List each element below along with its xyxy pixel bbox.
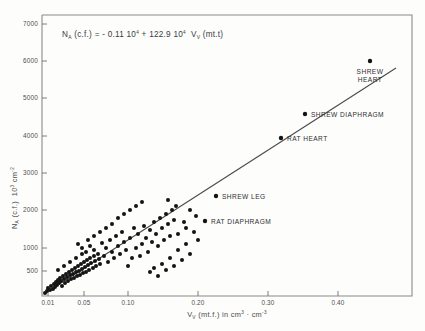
y-tick-label: 3000 bbox=[23, 169, 38, 176]
data-point bbox=[92, 248, 96, 252]
x-tick-label: 0.40 bbox=[331, 299, 344, 306]
data-point bbox=[93, 259, 97, 263]
data-point bbox=[188, 208, 192, 212]
data-point bbox=[118, 252, 122, 256]
data-point bbox=[102, 254, 106, 258]
data-point bbox=[184, 226, 188, 230]
data-point bbox=[166, 198, 170, 202]
data-point bbox=[188, 252, 192, 256]
data-point bbox=[56, 268, 60, 272]
y-tick-label: 7000 bbox=[23, 20, 38, 27]
data-point bbox=[128, 236, 132, 240]
x-axis-ticks: 0.010.050.100.200.300.40 bbox=[41, 291, 344, 306]
data-point-label: RAT HEART bbox=[287, 135, 328, 142]
y-tick-label: 500 bbox=[27, 267, 39, 274]
data-point bbox=[116, 244, 120, 248]
data-point bbox=[170, 208, 174, 212]
data-point bbox=[124, 248, 128, 252]
regression-line-path bbox=[50, 68, 396, 290]
data-point bbox=[152, 220, 156, 224]
labeled-data-points: SHREWHEARTSHREW DIAPHRAGMRAT HEARTSHREW … bbox=[203, 59, 384, 225]
labeled-data-point bbox=[279, 136, 283, 140]
labeled-data-point bbox=[203, 219, 207, 223]
data-point bbox=[112, 256, 116, 260]
data-point bbox=[160, 226, 164, 230]
data-point-label: SHREW DIAPHRAGM bbox=[311, 111, 384, 118]
data-point bbox=[122, 240, 126, 244]
data-point bbox=[136, 232, 140, 236]
y-tick-label: 5000 bbox=[23, 94, 38, 101]
data-point bbox=[172, 218, 176, 222]
data-point bbox=[160, 262, 164, 266]
data-point bbox=[150, 240, 154, 244]
labeled-data-point bbox=[303, 112, 307, 116]
data-point bbox=[194, 214, 198, 218]
data-point bbox=[176, 248, 180, 252]
data-point bbox=[156, 244, 160, 248]
data-point bbox=[84, 250, 88, 254]
data-point bbox=[182, 220, 186, 224]
data-point bbox=[148, 228, 152, 232]
data-point bbox=[104, 246, 108, 250]
data-point bbox=[96, 252, 100, 256]
y-tick-label: 1000 bbox=[23, 244, 38, 251]
y-axis-title: NA (c.f.) 103 cm-2 bbox=[10, 167, 20, 229]
data-point bbox=[104, 226, 108, 230]
data-point bbox=[164, 212, 168, 216]
data-point bbox=[172, 264, 176, 268]
data-point bbox=[94, 264, 98, 268]
data-point bbox=[126, 264, 130, 268]
data-point bbox=[144, 236, 148, 240]
data-point bbox=[164, 268, 168, 272]
data-point bbox=[108, 238, 112, 242]
data-point bbox=[68, 260, 72, 264]
data-point-label: RAT DIAPHRAGM bbox=[211, 218, 271, 225]
data-point bbox=[154, 232, 158, 236]
data-point bbox=[128, 208, 132, 212]
data-point bbox=[89, 261, 93, 265]
data-point bbox=[168, 256, 172, 260]
data-point bbox=[148, 270, 152, 274]
y-tick-label: 6000 bbox=[23, 57, 38, 64]
data-point bbox=[140, 242, 144, 246]
data-point bbox=[146, 250, 150, 254]
data-point bbox=[116, 216, 120, 220]
data-point bbox=[98, 262, 102, 266]
data-point bbox=[134, 246, 138, 250]
data-point bbox=[180, 258, 184, 262]
regression-line bbox=[50, 68, 396, 290]
data-point bbox=[88, 256, 92, 260]
y-tick-label: 2000 bbox=[23, 206, 38, 213]
scatter-plot-figure: 7000600050004000300020001000500 0.010.05… bbox=[0, 0, 425, 331]
data-point bbox=[142, 224, 146, 228]
data-point-label: SHREW bbox=[357, 68, 384, 75]
labeled-data-point bbox=[368, 59, 372, 63]
data-point bbox=[87, 268, 91, 272]
x-tick-label: 0.30 bbox=[261, 299, 274, 306]
data-point bbox=[106, 260, 110, 264]
data-point bbox=[114, 234, 118, 238]
data-point bbox=[162, 238, 166, 242]
labeled-data-point bbox=[214, 194, 218, 198]
x-tick-label: 0.01 bbox=[41, 299, 54, 306]
x-tick-label: 0.10 bbox=[121, 299, 134, 306]
data-point bbox=[196, 238, 200, 242]
data-point bbox=[76, 242, 80, 246]
data-point bbox=[192, 230, 196, 234]
data-point bbox=[62, 264, 66, 268]
data-point bbox=[92, 254, 96, 258]
data-point bbox=[110, 222, 114, 226]
data-point bbox=[168, 234, 172, 238]
data-point bbox=[97, 257, 101, 261]
data-point bbox=[60, 284, 64, 288]
data-point bbox=[130, 256, 134, 260]
regression-equation: NA (c.f.) = - 0.11 104 + 122.9 104 VV (m… bbox=[62, 30, 223, 40]
data-point bbox=[98, 230, 102, 234]
data-point bbox=[132, 226, 136, 230]
data-point bbox=[138, 254, 142, 258]
data-point bbox=[122, 212, 126, 216]
x-tick-label: 0.05 bbox=[77, 299, 90, 306]
data-point bbox=[80, 252, 84, 256]
x-tick-label: 0.20 bbox=[191, 299, 204, 306]
data-point-label: HEART bbox=[358, 76, 382, 83]
